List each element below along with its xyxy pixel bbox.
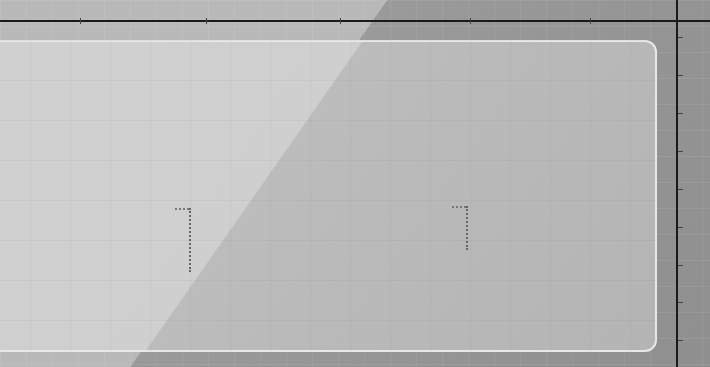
nauru-leader-horizontal (175, 208, 189, 210)
nauru-leader-vertical (189, 208, 191, 272)
saudi-leader-horizontal (452, 206, 466, 208)
figure-tonga (240, 88, 332, 278)
figure-uae (506, 88, 598, 278)
top-ruler-line (0, 20, 710, 22)
right-ruler-tick (678, 335, 684, 345)
right-ruler-tick (678, 297, 684, 307)
right-ruler-tick (678, 70, 684, 80)
figure-french-polynesia (328, 88, 420, 278)
saudi-leader-vertical (466, 206, 468, 250)
figure-nauru (152, 88, 244, 278)
right-ruler-tick (678, 32, 684, 42)
figure-usa (592, 88, 684, 278)
figure-saudi-arabia (418, 88, 510, 278)
top-ruler (0, 0, 710, 40)
